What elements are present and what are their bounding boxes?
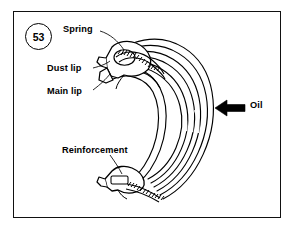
figure-number-badge: 53 — [25, 23, 52, 50]
arrow-left-icon — [215, 100, 245, 116]
figure-page: 53 Spring Dust lip Main lip Reinforcemen… — [0, 0, 295, 230]
seal-inner-bore-arc-2 — [113, 76, 159, 181]
label-dust-lip: Dust lip — [47, 64, 82, 73]
label-spring: Spring — [63, 25, 93, 34]
reinforcement-metal-insert — [111, 176, 128, 184]
label-oil: Oil — [250, 101, 263, 110]
seal-arc-6 — [118, 67, 182, 179]
highlight-stroke-3 — [195, 110, 198, 133]
oil-direction-arrow — [215, 100, 245, 116]
highlight-stroke-1 — [183, 112, 186, 131]
label-reinforcement: Reinforcement — [62, 146, 128, 155]
surface-highlight — [183, 110, 198, 133]
highlight-stroke-2 — [189, 110, 192, 132]
label-main-lip: Main lip — [47, 87, 82, 96]
lower-cutaway-section — [97, 166, 164, 202]
